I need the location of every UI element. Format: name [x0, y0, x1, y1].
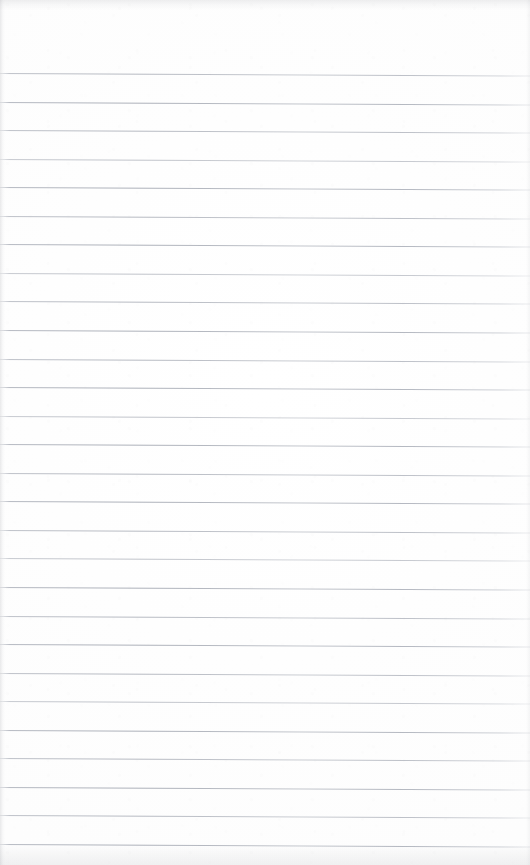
scanned-page: [0, 0, 530, 865]
page-body-text: [0, 0, 530, 865]
